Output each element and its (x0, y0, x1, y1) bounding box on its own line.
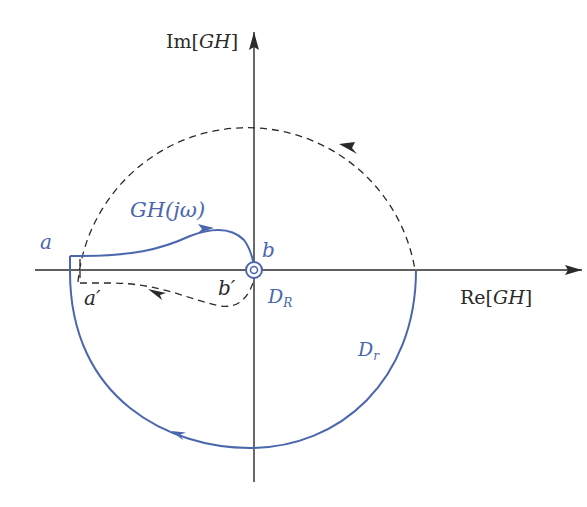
gh-curve (70, 230, 254, 265)
point-a-label: a (40, 232, 52, 252)
dr-arc-main: D (358, 338, 373, 360)
imag-label-prefix: Im[ (166, 30, 199, 52)
real-axis-label: Re[GH] (460, 288, 532, 307)
dr-origin-sub: R (283, 296, 292, 310)
gh-curve-label: GH(jω) (130, 200, 205, 221)
imag-axis-label: Im[GH] (166, 32, 238, 51)
real-label-var: GH (493, 286, 525, 308)
real-label-suffix: ] (525, 286, 532, 308)
dr-origin-label: DR (268, 287, 292, 306)
imag-label-suffix: ] (231, 30, 238, 52)
point-b-prime-label: b′ (218, 278, 235, 298)
dr-origin-main: D (268, 285, 283, 307)
dr-arc-label: Dr (358, 340, 379, 359)
origin-inner-circle (251, 267, 258, 274)
dashed-arc-arrow-icon (339, 142, 357, 154)
nyquist-diagram: Im[GH] Re[GH] GH(jω) a a′ b b′ DR Dr (0, 0, 587, 507)
imag-label-var: GH (199, 30, 231, 52)
point-b-label: b (262, 240, 275, 260)
diagram-canvas (0, 0, 587, 507)
dr-arc-arrow-icon (171, 429, 187, 442)
dashed-image-arc (78, 128, 415, 282)
dr-arc-sub: r (373, 349, 379, 363)
real-label-prefix: Re[ (460, 286, 493, 308)
point-a-prime-label: a′ (84, 288, 100, 308)
mirror-curve-arrow-icon (148, 289, 166, 300)
